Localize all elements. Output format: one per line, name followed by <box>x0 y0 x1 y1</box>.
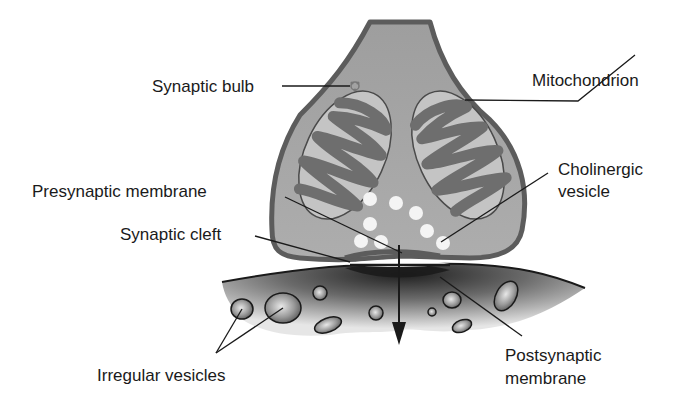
label-cholinergic-vesicle-line1: Cholinergic <box>558 160 644 179</box>
label-cholinergic-vesicle-line2: vesicle <box>558 182 610 201</box>
label-postsynaptic-membrane-line1: Postsynaptic <box>505 346 602 365</box>
synapse-diagram: Synaptic bulb Mitochondrion Cholinergic … <box>0 0 699 408</box>
label-synaptic-bulb: Synaptic bulb <box>152 77 254 96</box>
label-presynaptic-membrane: Presynaptic membrane <box>32 182 207 201</box>
label-postsynaptic-membrane-line2: membrane <box>505 369 586 388</box>
label-irregular-vesicles: Irregular vesicles <box>97 366 226 385</box>
label-synaptic-cleft: Synaptic cleft <box>120 225 221 244</box>
label-mitochondrion: Mitochondrion <box>532 71 639 90</box>
